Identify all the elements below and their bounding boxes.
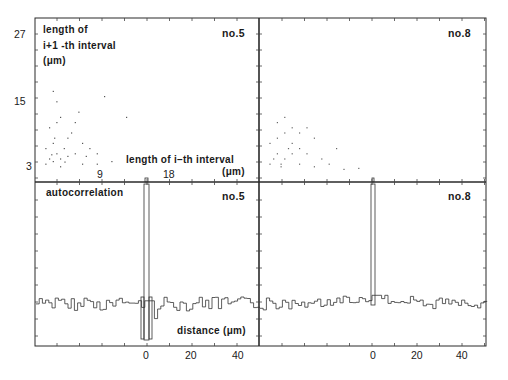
peak-bar-no8 [371,184,375,305]
y-tick-27: 27 [14,28,26,40]
scatter-xlabel-unit: (μm) [222,166,245,177]
peak-bar-no5 [144,184,149,340]
x-tick-40-left: 40 [232,349,244,361]
panel-tag-autocorr-no8: no.8 [448,190,471,202]
panel-tag-scatter-no5: no.5 [222,27,245,39]
scatter-points-no8 [269,117,359,170]
autocorr-xlabel: distance (μm) [177,325,246,336]
x-tick-9: 9 [97,168,103,180]
y-tick-3: 3 [26,160,32,172]
x-tick-40-right: 40 [456,349,468,361]
scatter-xlabel-line1: length of i–th interval [126,154,234,165]
scatter-points-no5 [45,91,127,168]
autocorr-trace-no8 [260,295,487,310]
x-tick-18: 18 [163,168,175,180]
y-tick-15: 15 [14,95,26,107]
sidelobe-right-no5 [149,297,152,339]
autocorr-title: autocorrelation [46,187,123,198]
panel-tag-scatter-no8: no.8 [448,27,471,39]
scatter-ylabel-line1: length of [43,24,88,35]
x-tick-20-right: 20 [411,349,423,361]
x-tick-0-right: 0 [370,349,376,361]
autocorr-trace-no5 [36,297,260,319]
scatter-ylabel-unit: (μm) [43,55,66,66]
x-tick-20-left: 20 [185,349,197,361]
panel-tag-autocorr-no5: no.5 [222,190,245,202]
x-tick-0-left: 0 [143,349,149,361]
scatter-ylabel-line2: i+1 -th interval [43,40,116,51]
